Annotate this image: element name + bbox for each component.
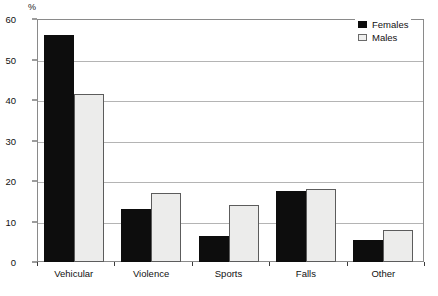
y-axis-tick-label: 50 bbox=[0, 54, 16, 65]
legend-swatch-males-icon bbox=[358, 34, 367, 41]
legend-item-males: Males bbox=[358, 31, 408, 43]
bar-males-falls bbox=[306, 189, 336, 262]
legend-swatch-females-icon bbox=[358, 21, 367, 28]
bar-group bbox=[199, 19, 259, 262]
legend-label-males: Males bbox=[372, 32, 397, 43]
y-axis-unit-label: % bbox=[28, 2, 36, 12]
x-axis-tick-mark bbox=[424, 262, 425, 266]
legend: Females Males bbox=[355, 16, 411, 47]
bar-females-other bbox=[353, 240, 383, 262]
bar-group bbox=[44, 19, 104, 262]
bar-males-violence bbox=[151, 193, 181, 262]
x-axis-tick-mark bbox=[347, 262, 348, 266]
y-axis-tick-label: 10 bbox=[0, 216, 16, 227]
y-axis-tick-label: 60 bbox=[0, 14, 16, 25]
bars-layer bbox=[37, 19, 424, 262]
bar-group bbox=[353, 19, 413, 262]
bar-females-violence bbox=[121, 209, 151, 262]
bar-males-other bbox=[383, 230, 413, 262]
bar-females-falls bbox=[276, 191, 306, 262]
x-axis-tick-mark bbox=[37, 262, 38, 266]
x-axis-category-label: Other bbox=[371, 268, 395, 279]
bar-group bbox=[121, 19, 181, 262]
legend-item-females: Females bbox=[358, 18, 408, 30]
bar-females-sports bbox=[199, 236, 229, 262]
bar-group bbox=[276, 19, 336, 262]
y-axis-tick-label: 0 bbox=[0, 257, 16, 268]
x-axis-tick-mark bbox=[114, 262, 115, 266]
x-axis-tick-mark bbox=[269, 262, 270, 266]
bar-males-sports bbox=[229, 205, 259, 262]
bar-females-vehicular bbox=[44, 35, 74, 262]
bar-chart: % 0102030405060 VehicularViolenceSportsF… bbox=[0, 0, 438, 296]
x-axis-category-label: Violence bbox=[133, 268, 169, 279]
bar-males-vehicular bbox=[74, 94, 104, 262]
legend-label-females: Females bbox=[372, 19, 408, 30]
x-axis-category-label: Falls bbox=[296, 268, 316, 279]
y-axis-tick-label: 20 bbox=[0, 176, 16, 187]
x-axis-category-label: Vehicular bbox=[54, 268, 93, 279]
y-axis-tick-label: 30 bbox=[0, 135, 16, 146]
x-axis-category-label: Sports bbox=[215, 268, 242, 279]
x-axis-tick-mark bbox=[192, 262, 193, 266]
y-axis-tick-label: 40 bbox=[0, 95, 16, 106]
